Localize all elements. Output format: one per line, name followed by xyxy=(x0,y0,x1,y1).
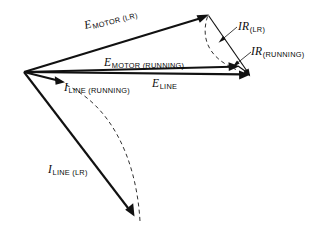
label-i-line-lr-symbol: I xyxy=(48,163,52,175)
label-e-line-symbol: E xyxy=(152,77,159,89)
label-ir-lr-subscript: (LR) xyxy=(250,25,265,34)
label-i-line-running: ILINE (RUNNING) xyxy=(64,78,130,94)
label-ir-running-symbol: IR xyxy=(251,45,262,57)
label-e-line: ELINE xyxy=(152,74,177,90)
phasor-diagram: EMOTOR (LR) EMOTOR (RUNNING) ELINE IR(LR… xyxy=(0,0,319,232)
label-ir-running-subscript: (RUNNING) xyxy=(263,50,305,59)
label-i-line-running-subscript: LINE (RUNNING) xyxy=(69,86,130,95)
label-i-line-lr: ILINE (LR) xyxy=(48,160,88,176)
label-e-motor-lr-symbol: E xyxy=(83,18,93,31)
label-i-line-lr-subscript: LINE (LR) xyxy=(53,168,88,177)
vector-e-line-shaft xyxy=(24,72,243,74)
label-ir-lr: IR(LR) xyxy=(238,17,265,33)
label-e-motor-running-subscript: MOTOR (RUNNING) xyxy=(112,61,185,70)
label-e-motor-running-symbol: E xyxy=(104,56,111,68)
arc-e-motor-transition xyxy=(205,17,236,70)
label-e-motor-running: EMOTOR (RUNNING) xyxy=(104,53,184,69)
phasor-vector-canvas xyxy=(0,0,319,232)
arc-i-line-transition xyxy=(66,85,140,221)
label-i-line-running-symbol: I xyxy=(64,81,68,93)
label-ir-running: IR(RUNNING) xyxy=(251,42,304,58)
label-ir-lr-symbol: IR xyxy=(238,20,249,32)
vector-e-line xyxy=(24,71,250,80)
label-e-line-subscript: LINE xyxy=(160,82,177,91)
